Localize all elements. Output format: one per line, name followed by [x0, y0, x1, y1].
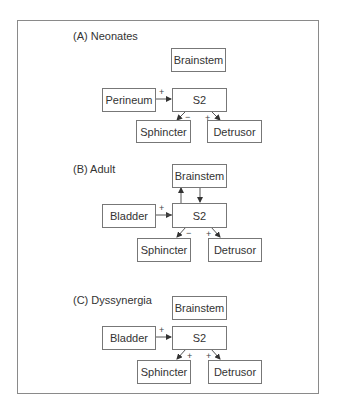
panel-a-title: (A) Neonates — [73, 30, 138, 42]
panel-a-detrusor-node: Detrusor — [207, 120, 262, 143]
panel-c-title: (C) Dyssynergia — [73, 294, 152, 306]
panel-a-sign-sphincter: − — [185, 113, 190, 122]
connection-arrows — [0, 0, 338, 409]
panel-a-brainstem-node: Brainstem — [171, 48, 226, 72]
panel-a-s2-node: S2 — [172, 88, 227, 112]
panel-c-detrusor-node: Detrusor — [208, 360, 262, 384]
panel-a-perineum-node: Perineum — [102, 88, 156, 112]
panel-b-sign-detrusor: + — [206, 230, 211, 239]
panel-c-brainstem-node: Brainstem — [172, 296, 227, 320]
panel-b-sign-input: + — [159, 204, 164, 213]
panel-a-sphincter-node: Sphincter — [136, 120, 191, 143]
panel-b-sphincter-node: Sphincter — [137, 238, 191, 262]
panel-a-sign-detrusor: + — [205, 114, 210, 123]
panel-b-brainstem-node: Brainstem — [172, 164, 227, 188]
panel-b-bladder-node: Bladder — [102, 204, 156, 228]
panel-c-sign-input: + — [159, 326, 164, 335]
panel-b-detrusor-node: Detrusor — [208, 238, 262, 262]
panel-c-sign-detrusor: + — [206, 352, 211, 361]
panel-b-sign-sphincter: − — [186, 229, 191, 238]
panel-c-sphincter-node: Sphincter — [137, 360, 191, 384]
panel-b-s2-node: S2 — [172, 203, 227, 228]
panel-b-title: (B) Adult — [73, 163, 115, 175]
panel-c-sign-sphincter: + — [187, 352, 192, 361]
panel-a-sign-input: + — [159, 88, 164, 97]
panel-c-bladder-node: Bladder — [102, 326, 156, 350]
panel-c-s2-node: S2 — [172, 326, 227, 350]
